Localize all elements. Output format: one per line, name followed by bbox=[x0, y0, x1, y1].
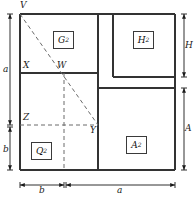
vertex-label-V: V bbox=[20, 1, 27, 10]
dimension-label-bottom-a: a bbox=[117, 186, 122, 195]
dimension-label-bottom-b: b bbox=[39, 186, 45, 195]
dimension-arrowhead bbox=[8, 14, 12, 19]
region-label-Q: Q2 bbox=[31, 142, 52, 160]
vertex-label-X: X bbox=[23, 61, 29, 70]
dimension-label-left-b: b bbox=[3, 145, 9, 154]
dimension-label-left-a: a bbox=[3, 65, 8, 74]
dimension-arrowhead bbox=[59, 183, 64, 187]
region-label-G: G2 bbox=[53, 31, 74, 49]
dimension-arrowhead bbox=[182, 14, 186, 19]
vertex-label-Y: Y bbox=[90, 126, 96, 135]
region-H-exponent: 2 bbox=[146, 37, 150, 43]
dimension-arrowhead bbox=[8, 127, 12, 132]
dimension-arrowhead bbox=[182, 165, 186, 170]
dimension-arrows-group bbox=[7, 14, 187, 188]
dimension-label-right-H: H bbox=[185, 41, 193, 50]
vertex-label-Z: Z bbox=[23, 113, 29, 122]
dimension-arrowhead bbox=[182, 72, 186, 77]
region-Q-exponent: 2 bbox=[43, 148, 47, 154]
dimension-arrowhead bbox=[8, 120, 12, 125]
region-G-exponent: 2 bbox=[65, 37, 69, 43]
region-H-base: H bbox=[138, 36, 146, 45]
diagram-canvas: V X W Z Y G2 H2 Q2 A2 a b b a H A bbox=[0, 0, 194, 201]
region-label-H: H2 bbox=[133, 31, 154, 49]
dimension-arrowhead bbox=[66, 183, 71, 187]
region-label-A: A2 bbox=[126, 136, 147, 154]
diagram-svg bbox=[0, 0, 194, 201]
vertex-label-W: W bbox=[57, 61, 66, 70]
region-A-exponent: 2 bbox=[138, 142, 142, 148]
dimension-arrowhead bbox=[182, 88, 186, 93]
dimension-label-right-A: A bbox=[185, 124, 192, 133]
dimension-arrowhead bbox=[8, 165, 12, 170]
dimension-arrowhead bbox=[20, 183, 25, 187]
dimension-arrowhead bbox=[170, 183, 175, 187]
